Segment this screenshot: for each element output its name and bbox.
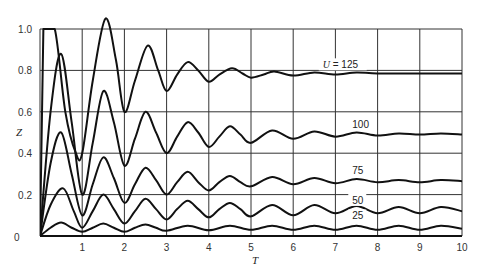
y-tick-label: 0.8 [18, 65, 32, 76]
y-tick-label: 0.4 [18, 148, 32, 159]
origin-label: 0 [14, 232, 20, 243]
x-tick-label: 6 [290, 242, 296, 253]
series-label: 75 [352, 165, 364, 176]
y-axis-ticks: 0.20.40.60.81.0 [18, 24, 32, 201]
x-tick-label: 1 [79, 242, 85, 253]
series-label: 25 [352, 210, 364, 221]
x-tick-label: 4 [206, 242, 212, 253]
x-tick-label: 5 [248, 242, 254, 253]
y-tick-label: 1.0 [18, 24, 32, 35]
y-tick-label: 0.2 [18, 190, 32, 201]
series-labels: U = 125100755025 [319, 58, 373, 221]
y-axis-label: Z [16, 126, 23, 138]
chart: 0.20.40.60.81.0 12345678910 U = 12510075… [0, 0, 478, 273]
series-label: 50 [352, 195, 364, 206]
x-tick-label: 7 [333, 242, 339, 253]
grid-lines [40, 29, 462, 236]
x-tick-label: 10 [456, 242, 468, 253]
x-tick-label: 8 [375, 242, 381, 253]
series-label: 100 [352, 119, 369, 130]
x-axis-ticks: 12345678910 [79, 242, 468, 253]
x-axis-label: T [252, 254, 259, 266]
x-tick-label: 9 [417, 242, 423, 253]
y-tick-label: 0.6 [18, 107, 32, 118]
series-label: U = 125 [323, 59, 359, 70]
x-tick-label: 2 [122, 242, 128, 253]
x-tick-label: 3 [164, 242, 170, 253]
